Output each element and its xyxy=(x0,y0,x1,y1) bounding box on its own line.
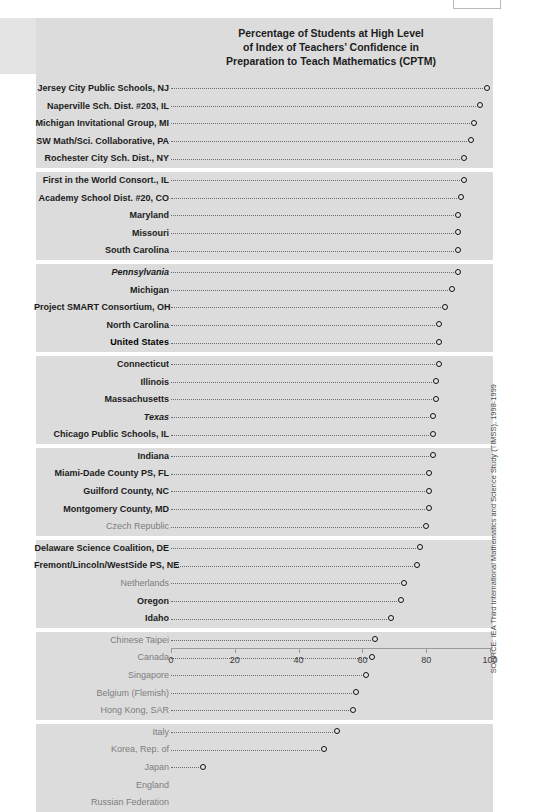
chart-row: Naperville Sch. Dist. #203, IL xyxy=(36,98,493,116)
data-point-marker[interactable] xyxy=(461,177,467,183)
chart-row: Indiana xyxy=(36,448,493,466)
data-point-marker[interactable] xyxy=(436,321,442,327)
row-label: Massachusetts xyxy=(34,391,174,409)
row-label: South Carolina xyxy=(34,242,174,260)
data-point-marker[interactable] xyxy=(484,85,490,91)
chart-row: Idaho xyxy=(36,610,493,628)
chart-row: Czech Republic xyxy=(36,518,493,536)
data-point-marker[interactable] xyxy=(468,137,474,143)
chart-row: Michigan xyxy=(36,282,493,300)
data-point-marker[interactable] xyxy=(200,764,206,770)
data-point-marker[interactable] xyxy=(417,544,423,550)
row-label: Jersey City Public Schools, NJ xyxy=(34,80,174,98)
chart-title-line-2: of Index of Teachers’ Confidence in xyxy=(171,40,491,54)
data-point-marker[interactable] xyxy=(372,636,378,642)
leader-line xyxy=(171,435,429,437)
chart-row: SW Math/Sci. Collaborative, PA xyxy=(36,133,493,151)
data-point-marker[interactable] xyxy=(430,431,436,437)
row-label: Korea, Rep. of xyxy=(34,741,174,759)
data-point-marker[interactable] xyxy=(426,470,432,476)
row-plot-lane xyxy=(171,282,490,300)
data-point-marker[interactable] xyxy=(458,194,464,200)
data-point-marker[interactable] xyxy=(426,505,432,511)
x-axis: 020406080100 xyxy=(36,648,493,680)
row-label: Russian Federation xyxy=(34,794,174,812)
data-point-marker[interactable] xyxy=(442,304,448,310)
chart-row: Rochester City Sch. Dist., NY xyxy=(36,150,493,168)
chart-row: First in the World Consort., IL xyxy=(36,172,493,190)
data-point-marker[interactable] xyxy=(401,580,407,586)
row-label: Michigan xyxy=(34,282,174,300)
chart-row: Fremont/Lincoln/WestSide PS, NE xyxy=(36,557,493,575)
row-plot-lane xyxy=(171,334,490,352)
data-point-marker[interactable] xyxy=(449,286,455,292)
data-point-marker[interactable] xyxy=(433,378,439,384)
x-axis-tick xyxy=(426,648,427,653)
leader-line xyxy=(171,750,320,752)
data-point-marker[interactable] xyxy=(321,746,327,752)
row-label: Pennsylvania xyxy=(34,264,174,282)
row-label: Texas xyxy=(34,409,174,427)
row-plot-lane xyxy=(171,777,490,795)
leader-line xyxy=(171,272,454,274)
data-point-marker[interactable] xyxy=(353,689,359,695)
leader-line xyxy=(171,382,432,384)
data-point-marker[interactable] xyxy=(477,102,483,108)
row-plot-lane xyxy=(171,540,490,558)
row-label: Belgium (Flemish) xyxy=(34,685,174,703)
data-point-marker[interactable] xyxy=(455,269,461,275)
row-label: England xyxy=(34,777,174,795)
leader-line xyxy=(171,215,454,217)
data-point-marker[interactable] xyxy=(334,728,340,734)
row-plot-lane xyxy=(171,150,490,168)
row-plot-lane xyxy=(171,299,490,317)
row-plot-lane xyxy=(171,465,490,483)
data-point-marker[interactable] xyxy=(350,707,356,713)
leader-line xyxy=(171,566,413,568)
leader-line xyxy=(171,601,397,603)
data-point-marker[interactable] xyxy=(423,523,429,529)
data-point-marker[interactable] xyxy=(461,155,467,161)
chart-row: Guilford County, NC xyxy=(36,483,493,501)
leader-line xyxy=(171,619,387,621)
data-point-marker[interactable] xyxy=(414,562,420,568)
row-plot-lane xyxy=(171,207,490,225)
data-point-marker[interactable] xyxy=(430,452,436,458)
data-point-marker[interactable] xyxy=(455,247,461,253)
leader-line xyxy=(171,141,467,143)
data-point-marker[interactable] xyxy=(388,615,394,621)
x-axis-tick-label: 80 xyxy=(406,655,446,665)
x-axis-line xyxy=(171,648,490,649)
leader-line xyxy=(171,106,476,108)
chart-row: United States xyxy=(36,334,493,352)
row-plot-lane xyxy=(171,190,490,208)
row-plot-lane xyxy=(171,172,490,190)
data-point-marker[interactable] xyxy=(455,229,461,235)
chart-title-line-1: Percentage of Students at High Level xyxy=(171,26,491,40)
chart-row: Maryland xyxy=(36,207,493,225)
leader-line xyxy=(171,548,416,550)
data-point-marker[interactable] xyxy=(426,488,432,494)
data-point-marker[interactable] xyxy=(430,413,436,419)
leader-line xyxy=(171,123,470,125)
chart-row: Project SMART Consortium, OH xyxy=(36,299,493,317)
data-point-marker[interactable] xyxy=(436,361,442,367)
data-point-marker[interactable] xyxy=(433,396,439,402)
data-point-marker[interactable] xyxy=(398,597,404,603)
chart-row: Pennsylvania xyxy=(36,264,493,282)
chart-row: Netherlands xyxy=(36,575,493,593)
x-axis-tick-label: 20 xyxy=(215,655,255,665)
data-point-marker[interactable] xyxy=(471,120,477,126)
row-label: Fremont/Lincoln/WestSide PS, NE xyxy=(34,557,174,575)
row-plot-lane xyxy=(171,483,490,501)
row-plot-lane xyxy=(171,759,490,777)
row-plot-lane xyxy=(171,702,490,720)
data-point-marker[interactable] xyxy=(455,212,461,218)
data-point-marker[interactable] xyxy=(436,339,442,345)
row-plot-lane xyxy=(171,317,490,335)
page-left-margin-block xyxy=(0,18,36,74)
row-plot-lane xyxy=(171,685,490,703)
row-label: Chicago Public Schools, IL xyxy=(34,426,174,444)
leader-line xyxy=(171,456,429,458)
chart-row: North Carolina xyxy=(36,317,493,335)
